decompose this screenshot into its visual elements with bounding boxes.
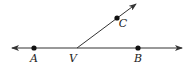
angle-diagram: A V B C	[0, 0, 191, 69]
label-c: C	[119, 17, 128, 30]
point-b	[135, 45, 140, 50]
label-a: A	[29, 52, 38, 65]
label-b: B	[133, 52, 142, 65]
label-v: V	[69, 52, 78, 65]
point-a	[31, 45, 36, 50]
